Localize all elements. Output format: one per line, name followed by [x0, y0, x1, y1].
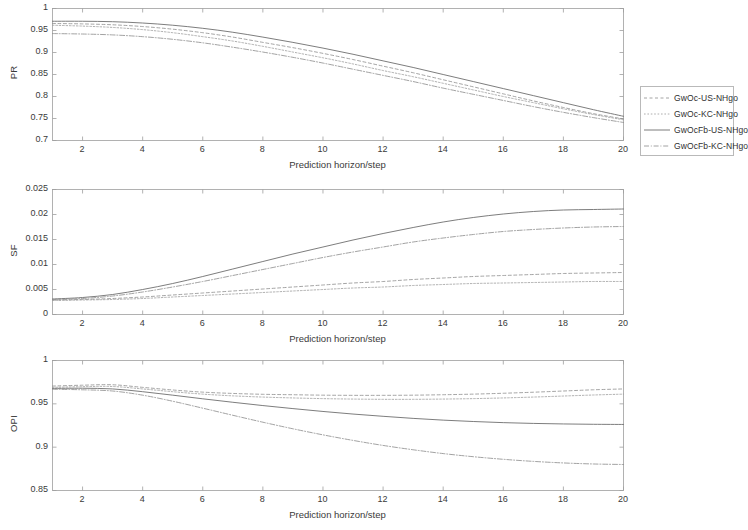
x-tick-label: 16	[489, 494, 517, 504]
x-tick-label: 6	[188, 144, 216, 154]
y-tick-label: 0.025	[6, 183, 48, 193]
series-line	[53, 385, 624, 396]
legend-item[interactable]: GwOcFb-KC-NHgo	[641, 138, 733, 154]
legend-line-sample	[644, 109, 670, 119]
x-tick-label: 12	[369, 144, 397, 154]
x-tick-label: 10	[308, 318, 336, 328]
x-tick-label: 10	[308, 144, 336, 154]
legend-line-sample	[644, 141, 670, 151]
axes-frame	[53, 9, 624, 141]
x-tick-label: 20	[609, 494, 637, 504]
plot-area-pr	[52, 8, 624, 141]
series-line	[53, 34, 624, 123]
x-tick-label: 20	[609, 144, 637, 154]
legend-item[interactable]: GwOcFb-US-NHgo	[641, 122, 733, 138]
axes-frame	[53, 190, 624, 315]
series-line	[53, 23, 624, 118]
series-line	[53, 389, 624, 464]
legend-line-sample	[644, 125, 670, 135]
x-tick-label: 14	[429, 318, 457, 328]
x-tick-label: 14	[429, 494, 457, 504]
x-tick-label: 16	[489, 318, 517, 328]
y-tick-label: 0.7	[6, 134, 48, 144]
legend-item-label: GwOc-KC-NHgo	[674, 109, 738, 119]
x-tick-label: 12	[369, 318, 397, 328]
x-tick-label: 14	[429, 144, 457, 154]
series-line	[53, 273, 624, 301]
x-tick-label: 18	[549, 494, 577, 504]
plot-area-opi	[52, 360, 624, 491]
x-tick-label: 2	[68, 318, 96, 328]
y-tick-label: 0.85	[6, 484, 48, 494]
x-tick-label: 6	[188, 494, 216, 504]
legend-item-label: GwOc-US-NHgo	[674, 93, 738, 103]
x-tick-label: 4	[128, 494, 156, 504]
x-tick-label: 20	[609, 318, 637, 328]
x-tick-label: 6	[188, 318, 216, 328]
x-tick-label: 12	[369, 494, 397, 504]
x-tick-label: 2	[68, 144, 96, 154]
y-tick-label: 1	[6, 354, 48, 364]
x-tick-label: 4	[128, 144, 156, 154]
x-tick-label: 18	[549, 144, 577, 154]
y-tick-label: 0	[6, 308, 48, 318]
chart-panel-opi: 24681012141618200.850.90.951Prediction h…	[52, 360, 623, 490]
y-axis-label: SF	[8, 205, 19, 295]
legend-line-sample	[644, 93, 670, 103]
series-line	[53, 25, 624, 120]
x-tick-label: 10	[308, 494, 336, 504]
x-tick-label: 8	[248, 144, 276, 154]
legend: GwOc-US-NHgoGwOc-KC-NHgoGwOcFb-US-NHgoGw…	[640, 86, 734, 156]
chart-panel-pr: 24681012141618200.70.750.80.850.90.951Pr…	[52, 8, 623, 140]
axes-frame	[53, 361, 624, 491]
x-axis-label: Prediction horizon/step	[52, 333, 623, 344]
legend-item-label: GwOcFb-US-NHgo	[674, 125, 748, 135]
y-axis-label: PR	[8, 28, 19, 118]
series-line	[53, 388, 624, 424]
x-tick-label: 2	[68, 494, 96, 504]
y-tick-label: 1	[6, 2, 48, 12]
series-line	[53, 21, 624, 116]
x-tick-label: 16	[489, 144, 517, 154]
legend-item[interactable]: GwOc-KC-NHgo	[641, 106, 733, 122]
legend-item[interactable]: GwOc-US-NHgo	[641, 90, 733, 106]
x-tick-label: 18	[549, 318, 577, 328]
x-tick-label: 8	[248, 494, 276, 504]
series-line	[53, 386, 624, 399]
legend-item-label: GwOcFb-KC-NHgo	[674, 141, 748, 151]
plot-area-sf	[52, 189, 624, 315]
x-axis-label: Prediction horizon/step	[52, 509, 623, 520]
x-tick-label: 4	[128, 318, 156, 328]
x-axis-label: Prediction horizon/step	[52, 159, 623, 170]
y-axis-label: OPI	[8, 379, 19, 469]
x-tick-label: 8	[248, 318, 276, 328]
series-line	[53, 209, 624, 299]
chart-panel-sf: 246810121416182000.0050.010.0150.020.025…	[52, 189, 623, 314]
